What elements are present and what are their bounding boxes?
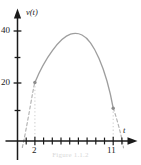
y-axis-label: v(t) [26,8,38,17]
velocity-curve [35,34,113,109]
endpoint-marker-right [112,107,115,110]
figure-caption: Figure 1.1.2 [0,152,141,159]
y-axis-arrowhead [14,9,21,19]
plot-canvas [0,0,141,165]
y-tick-label-40: 40 [1,26,10,35]
x-axis-arrowhead [128,137,138,144]
endpoint-marker-left [33,81,36,84]
velocity-parabola-figure: v(t) t 40 20 2 11 Figure 1.1.2 [0,0,141,165]
x-axis-label: t [123,126,125,135]
y-tick-label-20: 20 [1,78,10,87]
curve-dashed-left-extension [22,82,35,147]
